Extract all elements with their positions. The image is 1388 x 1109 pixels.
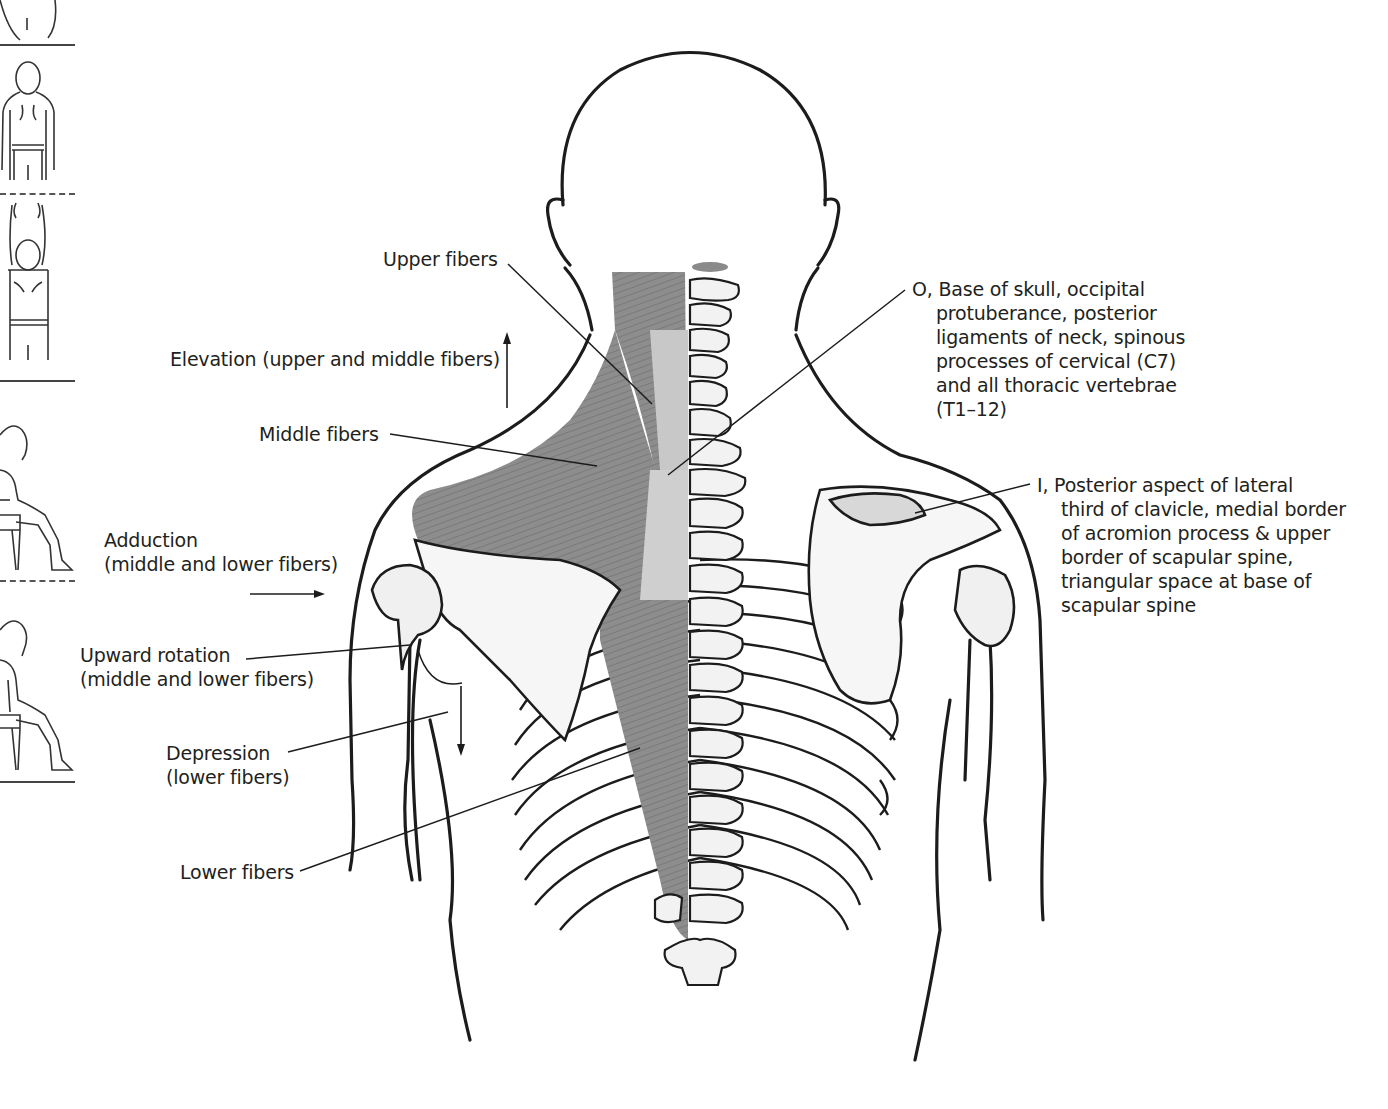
head-outline [562, 53, 825, 206]
label-middle-fibers: Middle fibers [259, 422, 379, 446]
origin-line-2: protuberance, posterior [912, 301, 1185, 325]
origin-line-5: and all thoracic vertebrae [912, 373, 1185, 397]
label-upper-fibers: Upper fibers [383, 247, 498, 271]
origin-line-6: (T1–12) [912, 397, 1185, 421]
label-adduction: Adduction (middle and lower fibers) [104, 528, 338, 576]
right-scapula [809, 487, 1014, 704]
figure-seated-holding-icon [0, 621, 72, 770]
label-lower-fibers: Lower fibers [180, 860, 294, 884]
side-panel-divider-dashed [0, 193, 75, 195]
label-depression: Depression (lower fibers) [166, 741, 289, 789]
origin-line-1: O, Base of skull, occipital [912, 278, 1145, 300]
label-adduction-detail: (middle and lower fibers) [104, 553, 338, 575]
figure-standing-arms-raised-icon [8, 203, 48, 360]
leader-depression [288, 712, 448, 752]
label-insertion: I, Posterior aspect of lateral third of … [1037, 473, 1346, 617]
side-panel-divider-dashed [0, 580, 75, 582]
label-adduction-title: Adduction [104, 529, 198, 551]
figure-seated-side-icon [0, 426, 72, 570]
label-origin: O, Base of skull, occipital protuberance… [912, 277, 1185, 421]
insertion-line-6: scapular spine [1037, 593, 1346, 617]
side-panel-figures [0, 0, 72, 770]
label-upward-rotation-title: Upward rotation [80, 644, 230, 666]
side-panel-divider [0, 380, 75, 382]
left-humerus-head [372, 565, 442, 670]
origin-line-3: ligaments of neck, spinous [912, 325, 1185, 349]
insertion-line-1: I, Posterior aspect of lateral [1037, 474, 1293, 496]
side-panel-divider [0, 44, 75, 46]
upward-rotation-arc [418, 650, 462, 684]
label-depression-title: Depression [166, 742, 270, 764]
side-panel-divider [0, 781, 75, 783]
insertion-line-3: of acromion process & upper [1037, 521, 1346, 545]
label-elevation: Elevation (upper and middle fibers) [170, 347, 500, 371]
right-humerus-head [955, 566, 1014, 646]
insertion-line-4: border of scapular spine, [1037, 545, 1346, 569]
insertion-line-5: triangular space at base of [1037, 569, 1346, 593]
label-upward-rotation-detail: (middle and lower fibers) [80, 668, 314, 690]
origin-line-4: processes of cervical (C7) [912, 349, 1185, 373]
label-depression-detail: (lower fibers) [166, 766, 289, 788]
figure-standing-arms-down-icon [2, 62, 54, 180]
label-upward-rotation: Upward rotation (middle and lower fibers… [80, 643, 314, 691]
insertion-line-2: third of clavicle, medial border [1037, 497, 1346, 521]
